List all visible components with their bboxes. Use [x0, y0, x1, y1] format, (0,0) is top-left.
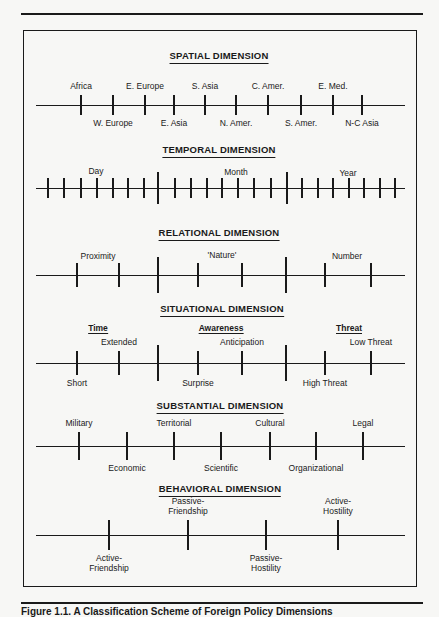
temporal-tick: [270, 178, 271, 198]
spatial-tick-label: C. Amer.: [252, 81, 285, 91]
temporal-tick: [394, 178, 395, 198]
relational-tick: [324, 263, 325, 287]
relational-tick: [197, 263, 198, 287]
relational-tick: [370, 263, 371, 287]
substantial-tick-label: Military: [66, 418, 93, 428]
substantial-tick-label: Territorial: [157, 418, 192, 428]
temporal-dimension-title: TEMPORAL DIMENSION: [162, 144, 275, 158]
spatial-tick: [144, 95, 145, 115]
spatial-tick: [300, 95, 301, 115]
relational-segment-divider: [157, 257, 159, 293]
substantial-tick-label: Legal: [353, 418, 374, 428]
spatial-tick: [204, 95, 205, 115]
spatial-tick: [361, 95, 362, 115]
temporal-tick: [237, 178, 238, 198]
relational-axis-line: [36, 275, 405, 276]
substantial-dimension-title: SUBSTANTIAL DIMENSION: [157, 400, 284, 414]
situational-tick: [370, 351, 371, 375]
relational-tick: [118, 263, 119, 287]
behavioral-dimension-title: BEHAVIORAL DIMENSION: [159, 483, 281, 497]
behavioral-axis-line: [36, 535, 405, 536]
spatial-tick: [267, 95, 268, 115]
temporal-tick: [47, 178, 48, 198]
temporal-tick: [301, 178, 302, 198]
substantial-tick: [269, 432, 270, 460]
relational-segment-divider: [285, 257, 287, 293]
temporal-tick: [317, 178, 318, 198]
substantial-tick: [78, 432, 79, 460]
relational-dimension-title: RELATIONAL DIMENSION: [159, 227, 280, 241]
temporal-segment-label: Month: [224, 167, 248, 177]
spatial-tick-label: E. Med.: [318, 81, 347, 91]
spatial-tick: [332, 95, 333, 115]
situational-tick-label: Extended: [101, 337, 137, 347]
situational-tick-label: Low Threat: [350, 337, 392, 347]
situational-group-heading: Threat: [336, 323, 362, 334]
situational-tick: [324, 351, 325, 375]
behavioral-tick: [187, 520, 188, 550]
spatial-tick-label: S. Asia: [192, 81, 218, 91]
top-rule: [21, 13, 423, 15]
behavioral-tick-label: Active-Friendship: [89, 553, 129, 573]
figure-caption: Figure 1.1. A Classification Scheme of F…: [21, 606, 333, 617]
spatial-tick: [80, 95, 81, 115]
substantial-tick-label: Organizational: [289, 463, 344, 473]
situational-tick: [197, 351, 198, 375]
situational-tick: [241, 351, 242, 375]
substantial-tick-label: Scientific: [204, 463, 238, 473]
substantial-tick: [173, 432, 174, 460]
situational-segment-divider: [285, 345, 287, 381]
temporal-tick: [80, 178, 81, 198]
relational-tick: [241, 263, 242, 287]
temporal-segment-label: Year: [339, 168, 356, 178]
spatial-axis-line: [36, 105, 405, 106]
temporal-tick: [143, 178, 144, 198]
temporal-tick: [332, 178, 333, 198]
spatial-tick-label: N-C Asia: [345, 118, 379, 128]
situational-segment-divider: [157, 345, 159, 381]
situational-tick: [118, 351, 119, 375]
spatial-tick-label: W. Europe: [93, 118, 133, 128]
behavioral-tick: [108, 520, 109, 550]
spatial-tick: [112, 95, 113, 115]
spatial-tick: [235, 95, 236, 115]
spatial-tick-label: E. Asia: [161, 118, 187, 128]
temporal-tick: [112, 178, 113, 198]
spatial-tick: [173, 95, 174, 115]
situational-tick-label: High Threat: [303, 378, 347, 388]
temporal-tick: [206, 178, 207, 198]
temporal-tick: [63, 178, 64, 198]
bottom-rule: [21, 602, 423, 604]
substantial-tick: [220, 432, 221, 460]
relational-segment-label: 'Nature': [208, 250, 237, 260]
situational-dimension-title: SITUATIONAL DIMENSION: [160, 303, 284, 317]
behavioral-tick-label: Passive-Hostility: [250, 553, 283, 573]
situational-group-heading: Awareness: [199, 323, 244, 334]
temporal-segment-label: Day: [88, 166, 103, 176]
temporal-tick: [127, 178, 128, 198]
temporal-segment-divider: [157, 172, 159, 204]
relational-segment-label: Proximity: [81, 251, 116, 261]
temporal-tick: [253, 178, 254, 198]
temporal-tick: [174, 178, 175, 198]
temporal-tick: [348, 178, 349, 198]
situational-group-heading: Time: [88, 323, 108, 334]
temporal-tick: [190, 178, 191, 198]
temporal-tick: [221, 178, 222, 198]
substantial-tick-label: Cultural: [255, 418, 284, 428]
situational-tick-label: Anticipation: [220, 337, 264, 347]
substantial-tick: [315, 432, 316, 460]
substantial-tick-label: Economic: [108, 463, 145, 473]
substantial-tick: [362, 432, 363, 460]
spatial-dimension-title: SPATIAL DIMENSION: [170, 50, 269, 64]
substantial-tick: [126, 432, 127, 460]
situational-tick: [76, 351, 77, 375]
temporal-tick: [96, 178, 97, 198]
behavioral-tick: [337, 520, 338, 550]
temporal-tick: [379, 178, 380, 198]
relational-segment-label: Number: [332, 251, 362, 261]
behavioral-tick-label: Passive-Friendship: [168, 496, 208, 516]
spatial-tick-label: Africa: [70, 81, 92, 91]
temporal-segment-divider: [286, 172, 288, 204]
spatial-tick-label: S. Amer.: [285, 118, 317, 128]
